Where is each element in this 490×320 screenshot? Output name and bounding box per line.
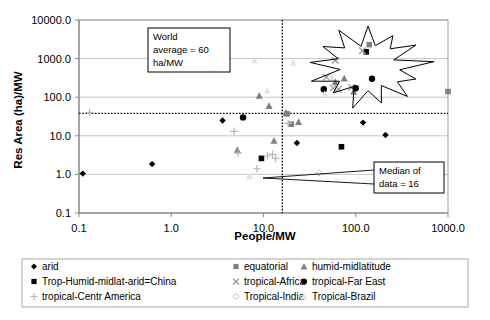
data-point — [149, 161, 155, 167]
world-average-line3: ha/MW — [153, 57, 183, 68]
data-point — [266, 102, 273, 109]
x-tick-label: 0.1 — [71, 222, 86, 234]
legend-entry[interactable]: Tropical-Brazil — [301, 291, 376, 302]
data-point — [240, 114, 246, 120]
data-point — [264, 87, 271, 94]
data-point — [251, 57, 258, 64]
legend-label: Tropical-India — [244, 291, 305, 302]
y-tick-label: 10.0 — [50, 130, 71, 142]
data-point — [321, 86, 327, 92]
y-tick-label: 1.0 — [56, 168, 71, 180]
median-line2: data = 16 — [379, 178, 419, 189]
legend-marker-square-icon — [31, 279, 36, 284]
legend-entry[interactable]: tropical-Africa — [233, 276, 306, 287]
legend-marker-circle-icon — [301, 279, 307, 285]
world-average-line2: average = 60 — [153, 44, 209, 55]
legend-label: arid — [42, 261, 59, 272]
series-tropical-centr-america — [86, 109, 292, 173]
data-point — [360, 119, 366, 125]
world-average-line1: World — [153, 31, 178, 42]
legend: aridequatorialhumid-midlatitudeTrop-Humi… — [22, 259, 468, 307]
y-tick-label: 1000.0 — [37, 53, 71, 65]
world-average-callout: World average = 60 ha/MW — [148, 28, 230, 72]
legend-label: tropical-Far East — [312, 276, 386, 287]
y-axis-tick-labels: 0.11.010.0100.01000.010000.0 — [31, 14, 71, 219]
data-point — [316, 170, 322, 176]
data-point — [295, 118, 302, 125]
data-point — [294, 140, 300, 146]
legend-label: tropical-Centr America — [42, 291, 141, 302]
data-point — [246, 173, 253, 180]
data-point — [445, 89, 451, 95]
y-tick-label: 10000.0 — [31, 14, 71, 26]
x-tick-label: 100.0 — [342, 222, 370, 234]
data-point — [230, 128, 238, 136]
data-point — [382, 132, 388, 138]
legend-entry[interactable]: Trop-Humid-midlat-arid=China — [31, 276, 176, 287]
legend-label: humid-midlatitude — [312, 261, 391, 272]
data-point — [271, 137, 278, 144]
starburst-highlight — [310, 26, 434, 108]
data-point — [288, 121, 294, 127]
series-tropical-brazil — [206, 57, 335, 180]
legend-entry[interactable]: tropical-Far East — [301, 276, 386, 287]
y-tick-label: 0.1 — [56, 207, 71, 219]
legend-label: Trop-Humid-midlat-arid=China — [42, 276, 177, 287]
series-tropical-india — [316, 170, 322, 176]
data-point — [264, 152, 272, 160]
x-axis-title: People/MW — [234, 230, 295, 242]
legend-marker-square-icon — [233, 264, 238, 269]
legend-entry[interactable]: humid-midlatitude — [301, 261, 392, 272]
y-axis-title: Res Area (ha)/MW — [12, 71, 24, 168]
data-point — [290, 59, 297, 66]
legend-label: tropical-Africa — [244, 276, 306, 287]
x-tick-label: 1000.0 — [431, 222, 465, 234]
data-point — [259, 156, 265, 162]
legend-entry[interactable]: tropical-Centr America — [30, 291, 141, 302]
legend-label: Tropical-Brazil — [312, 291, 376, 302]
y-tick-label: 100.0 — [43, 91, 71, 103]
data-point — [256, 92, 263, 99]
data-point — [253, 165, 261, 173]
x-tick-label: 1.0 — [164, 222, 179, 234]
data-point — [219, 117, 225, 123]
median-callout: Median of data = 16 — [263, 162, 444, 193]
data-point — [80, 170, 86, 176]
chart-svg: 0.11.010.0100.01000.010000.0 0.11.010.01… — [0, 0, 490, 320]
legend-label: equatorial — [244, 261, 288, 272]
data-point — [86, 109, 94, 117]
data-point — [234, 146, 241, 153]
data-point — [339, 144, 345, 150]
median-line1: Median of — [379, 165, 421, 176]
chart-figure: 0.11.010.0100.01000.010000.0 0.11.010.01… — [0, 0, 490, 320]
legend-entry[interactable]: Tropical-India — [233, 291, 305, 302]
